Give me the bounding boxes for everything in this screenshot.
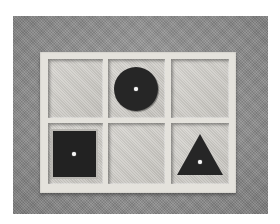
- triangle-shape-icon: [177, 134, 223, 175]
- circle-inset[interactable]: [114, 67, 158, 111]
- triangle-knob-icon[interactable]: [198, 160, 202, 164]
- compartment-r2-c1: [48, 123, 103, 184]
- compartment-r2-c3: [171, 123, 229, 184]
- compartment-r1-c1: [48, 59, 103, 118]
- photograph: [13, 16, 268, 214]
- square-inset[interactable]: [53, 131, 96, 177]
- circle-knob-icon[interactable]: [134, 87, 138, 91]
- compartment-r1-c2: [108, 59, 165, 118]
- triangle-inset[interactable]: [177, 134, 223, 175]
- compartment-r1-c3: [171, 59, 229, 118]
- wooden-tray: [40, 52, 236, 193]
- square-knob-icon[interactable]: [72, 152, 76, 156]
- compartment-r2-c2: [108, 123, 165, 184]
